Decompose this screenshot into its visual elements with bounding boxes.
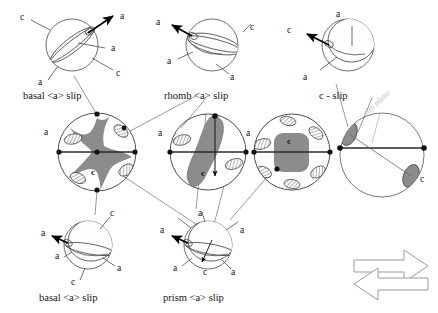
pole-center-label: c — [287, 136, 291, 146]
pole-c-label: c — [420, 174, 424, 184]
caption-c-slip: c - slip — [319, 90, 348, 101]
caption-basal-top: basal <a> slip — [23, 90, 82, 101]
svg-text:c: c — [203, 267, 207, 277]
svg-text:c: c — [110, 208, 114, 218]
svg-text:c: c — [116, 68, 120, 78]
caption-basal-bottom: basal <a> slip — [39, 292, 98, 303]
svg-text:c: c — [287, 25, 291, 35]
caption-rhomb: rhomb <a> slip — [164, 90, 228, 101]
svg-text:c: c — [71, 277, 75, 287]
svg-text:c: c — [20, 12, 24, 22]
caption-prism: prism <a> slip — [163, 292, 224, 303]
pole-center-label: c — [201, 168, 205, 178]
pole-center-label: c — [91, 167, 95, 177]
slip-systems-figure: a a c c a basal <a> slip a c a — [0, 0, 438, 313]
svg-text:c: c — [250, 22, 254, 32]
